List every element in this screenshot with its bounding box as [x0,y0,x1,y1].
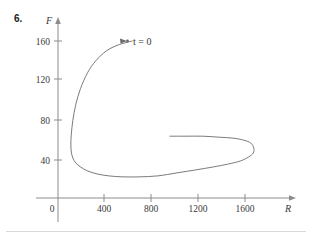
x-tick-label-0: 0 [50,204,55,214]
y-axis-arrowhead [55,17,61,24]
phase-plane-chart: F 160 120 80 40 R 0 400 800 1200 1600 t … [0,0,312,239]
x-axis: R 0 400 800 1200 1600 [36,194,296,214]
y-tick-label-120: 120 [36,75,51,85]
x-tick-label-1200: 1200 [189,204,208,214]
x-tick-label-1600: 1600 [236,204,255,214]
trajectory-curve [71,41,254,177]
y-tick-label-40: 40 [41,156,51,166]
y-tick-label-160: 160 [36,37,51,47]
y-axis-title: F [45,15,53,26]
trajectory-start-label: t = 0 [133,36,151,47]
x-tick-label-800: 800 [144,204,159,214]
trajectory-start-point [126,40,129,43]
y-tick-label-80: 80 [41,116,51,126]
x-tick-label-400: 400 [97,204,112,214]
y-axis: F 160 120 80 40 [36,15,62,222]
page-separator-rule [6,231,306,232]
trajectory-curve-group: t = 0 [71,36,254,177]
x-axis-title: R [284,203,291,214]
x-axis-arrowhead [289,195,296,201]
